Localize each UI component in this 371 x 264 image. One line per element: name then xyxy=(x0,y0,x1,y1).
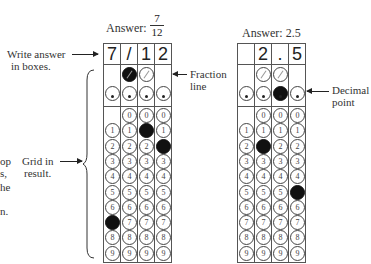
digit-bubble-9[interactable]: 9 xyxy=(122,246,137,261)
fraction-bubble[interactable] xyxy=(139,67,154,82)
answer-box[interactable]: 2 xyxy=(155,44,171,64)
digit-bubble-1[interactable]: 1 xyxy=(239,123,254,138)
digit-bubble-7[interactable]: 7 xyxy=(156,215,171,230)
digit-bubble-9[interactable]: 9 xyxy=(156,246,171,261)
digit-bubble-3[interactable]: 3 xyxy=(290,154,305,169)
digit-bubble-7[interactable]: 7 xyxy=(290,215,305,230)
answer-box[interactable]: 1 xyxy=(138,44,155,64)
digit-bubble-1[interactable]: 1 xyxy=(156,123,171,138)
digit-bubble-1[interactable]: 1 xyxy=(273,123,288,138)
digit-bubble-5[interactable]: 5 xyxy=(273,185,288,200)
answer-box[interactable]: / xyxy=(121,44,138,64)
digit-bubble-5[interactable]: 5 xyxy=(156,185,171,200)
decimal-bubble[interactable] xyxy=(239,86,254,101)
digit-bubble-8[interactable]: 8 xyxy=(105,230,120,245)
decimal-bubble[interactable] xyxy=(122,86,137,101)
answer-boxes: 2 . 5 xyxy=(238,44,305,65)
digit-bubble-2[interactable]: 2 xyxy=(122,139,137,154)
digit-bubble-0[interactable]: 0 xyxy=(122,108,137,123)
digit-bubble-6[interactable]: 6 xyxy=(290,200,305,215)
decimal-bubble[interactable] xyxy=(156,86,171,101)
digit-bubble-0[interactable]: 0 xyxy=(290,108,305,123)
fraction-bubble[interactable] xyxy=(256,67,271,82)
digit-bubble-6[interactable]: 6 xyxy=(273,200,288,215)
digit-bubble-3[interactable]: 3 xyxy=(122,154,137,169)
digit-bubble-2[interactable]: 2 xyxy=(256,139,271,154)
digit-bubble-8[interactable]: 8 xyxy=(122,230,137,245)
digit-bubble-2[interactable]: 2 xyxy=(105,139,120,154)
digit-bubble-8[interactable]: 8 xyxy=(290,230,305,245)
digit-bubble-9[interactable]: 9 xyxy=(239,246,254,261)
digit-bubble-4[interactable]: 4 xyxy=(273,169,288,184)
digit-bubble-2[interactable]: 2 xyxy=(239,139,254,154)
digit-bubble-3[interactable]: 3 xyxy=(273,154,288,169)
digit-bubble-5[interactable]: 5 xyxy=(239,185,254,200)
digit-bubble-6[interactable]: 6 xyxy=(239,200,254,215)
digit-bubble-1[interactable]: 1 xyxy=(256,123,271,138)
write-answer-line2: in boxes. xyxy=(7,60,66,72)
digit-bubble-1[interactable]: 1 xyxy=(122,123,137,138)
digit-bubble-9[interactable]: 9 xyxy=(139,246,154,261)
digit-bubble-6[interactable]: 6 xyxy=(122,200,137,215)
digit-bubble-5[interactable]: 5 xyxy=(290,185,305,200)
digit-bubble-7[interactable]: 7 xyxy=(239,215,254,230)
answer-box[interactable]: . xyxy=(272,44,289,64)
digit-bubble-3[interactable]: 3 xyxy=(105,154,120,169)
answer-box[interactable]: 5 xyxy=(289,44,305,64)
digit-bubble-3[interactable]: 3 xyxy=(256,154,271,169)
digit-bubble-7[interactable]: 7 xyxy=(256,215,271,230)
digit-bubble-8[interactable]: 8 xyxy=(256,230,271,245)
digit-bubble-0[interactable]: 0 xyxy=(273,108,288,123)
digit-bubble-2[interactable]: 2 xyxy=(156,139,171,154)
digit-bubble-6[interactable]: 6 xyxy=(105,200,120,215)
digit-bubble-0[interactable]: 0 xyxy=(156,108,171,123)
digit-bubble-6[interactable]: 6 xyxy=(256,200,271,215)
digit-bubble-4[interactable]: 4 xyxy=(239,169,254,184)
answer-box[interactable] xyxy=(238,44,255,64)
digit-bubble-3[interactable]: 3 xyxy=(156,154,171,169)
digit-bubble-5[interactable]: 5 xyxy=(256,185,271,200)
decimal-bubble[interactable] xyxy=(139,86,154,101)
digit-bubble-7[interactable]: 7 xyxy=(273,215,288,230)
answer-box[interactable]: 7 xyxy=(104,44,121,64)
digit-bubble-4[interactable]: 4 xyxy=(139,169,154,184)
digit-bubble-4[interactable]: 4 xyxy=(156,169,171,184)
digit-bubble-5[interactable]: 5 xyxy=(139,185,154,200)
digit-bubble-6[interactable]: 6 xyxy=(156,200,171,215)
digit-bubble-6[interactable]: 6 xyxy=(139,200,154,215)
digit-bubble-9[interactable]: 9 xyxy=(256,246,271,261)
digit-bubble-8[interactable]: 8 xyxy=(139,230,154,245)
decimal-bubble[interactable] xyxy=(256,86,271,101)
decimal-bubble[interactable] xyxy=(290,86,305,101)
digit-bubble-7[interactable]: 7 xyxy=(139,215,154,230)
digit-bubble-5[interactable]: 5 xyxy=(105,185,120,200)
digit-bubble-2[interactable]: 2 xyxy=(273,139,288,154)
digit-bubble-0[interactable]: 0 xyxy=(139,108,154,123)
decimal-bubble[interactable] xyxy=(105,86,120,101)
digit-bubble-2[interactable]: 2 xyxy=(139,139,154,154)
answer-box[interactable]: 2 xyxy=(255,44,272,64)
digit-bubble-9[interactable]: 9 xyxy=(273,246,288,261)
digit-bubble-9[interactable]: 9 xyxy=(105,246,120,261)
fraction-bubble[interactable] xyxy=(273,67,288,82)
digit-bubble-2[interactable]: 2 xyxy=(290,139,305,154)
digit-bubble-9[interactable]: 9 xyxy=(290,246,305,261)
decimal-bubble[interactable] xyxy=(273,86,288,101)
digit-bubble-8[interactable]: 8 xyxy=(239,230,254,245)
digit-bubble-4[interactable]: 4 xyxy=(122,169,137,184)
digit-bubble-1[interactable]: 1 xyxy=(139,123,154,138)
digit-bubble-4[interactable]: 4 xyxy=(105,169,120,184)
digit-bubble-0[interactable]: 0 xyxy=(256,108,271,123)
digit-bubble-7[interactable]: 7 xyxy=(105,215,120,230)
digit-bubble-5[interactable]: 5 xyxy=(122,185,137,200)
digit-bubble-7[interactable]: 7 xyxy=(122,215,137,230)
digit-bubble-4[interactable]: 4 xyxy=(290,169,305,184)
digit-bubble-3[interactable]: 3 xyxy=(139,154,154,169)
digit-bubble-1[interactable]: 1 xyxy=(290,123,305,138)
digit-bubble-8[interactable]: 8 xyxy=(156,230,171,245)
digit-bubble-4[interactable]: 4 xyxy=(256,169,271,184)
digit-bubble-3[interactable]: 3 xyxy=(239,154,254,169)
digit-bubble-1[interactable]: 1 xyxy=(105,123,120,138)
digit-bubble-8[interactable]: 8 xyxy=(273,230,288,245)
fraction-bubble[interactable] xyxy=(122,67,137,82)
